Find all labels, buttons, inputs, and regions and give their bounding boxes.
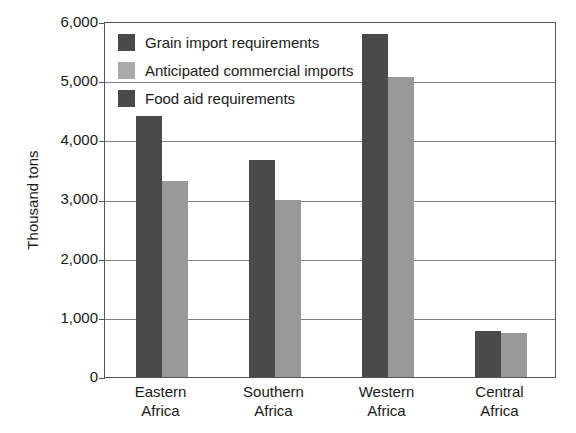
bar-anticipated-commercial-imports — [275, 200, 301, 377]
x-tick-label-line1: Eastern — [101, 382, 221, 401]
legend-item-label: Anticipated commercial imports — [145, 62, 353, 79]
bar-grain-import-requirements — [136, 116, 162, 377]
y-tick-2000: 2,000 — [30, 250, 98, 268]
bar-anticipated-commercial-imports — [501, 333, 527, 378]
x-tick-label-line2: Africa — [214, 401, 334, 420]
bar-grain-import-requirements — [475, 331, 501, 377]
x-tick-label-line2: Africa — [101, 401, 221, 420]
y-axis-tick-mark — [99, 141, 105, 142]
y-axis-tick-mark — [99, 23, 105, 24]
bar-grain-import-requirements — [249, 160, 275, 377]
x-tick-label-line2: Africa — [440, 401, 560, 420]
x-tick-label-line2: Africa — [327, 401, 447, 420]
legend-swatch-icon — [118, 90, 135, 107]
y-tick-3000: 3,000 — [30, 190, 98, 208]
x-tick-label-line1: Western — [327, 382, 447, 401]
bar-chart: Thousand tons 6,000 5,000 4,000 3,000 2,… — [0, 0, 576, 433]
x-tick-label: SouthernAfrica — [214, 382, 334, 420]
bar-anticipated-commercial-imports — [162, 181, 188, 377]
y-axis-tick-labels: 6,000 5,000 4,000 3,000 2,000 1,000 0 — [26, 0, 98, 433]
y-axis-tick-mark — [99, 260, 105, 261]
x-tick-label: WesternAfrica — [327, 382, 447, 420]
y-axis-tick-mark — [99, 319, 105, 320]
legend-item: Food aid requirements — [118, 86, 353, 110]
y-axis-tick-mark — [99, 201, 105, 202]
y-tick-4000: 4,000 — [30, 131, 98, 149]
bar-grain-import-requirements — [362, 34, 388, 377]
legend-swatch-icon — [118, 34, 135, 51]
bar-anticipated-commercial-imports — [388, 77, 414, 377]
y-tick-5000: 5,000 — [30, 72, 98, 90]
legend-item-label: Grain import requirements — [145, 34, 319, 51]
x-tick-label: EasternAfrica — [101, 382, 221, 420]
y-tick-6000: 6,000 — [30, 13, 98, 31]
x-tick-label: CentralAfrica — [440, 382, 560, 420]
chart-legend: Grain import requirementsAnticipated com… — [118, 30, 353, 114]
x-tick-label-line1: Southern — [214, 382, 334, 401]
legend-item: Anticipated commercial imports — [118, 58, 353, 82]
y-tick-0: 0 — [30, 368, 98, 386]
y-axis-tick-mark — [99, 82, 105, 83]
legend-swatch-icon — [118, 62, 135, 79]
gridline — [105, 141, 555, 142]
y-axis-tick-mark — [99, 378, 105, 379]
y-tick-1000: 1,000 — [30, 309, 98, 327]
legend-item-label: Food aid requirements — [145, 90, 295, 107]
legend-item: Grain import requirements — [118, 30, 353, 54]
x-tick-label-line1: Central — [440, 382, 560, 401]
